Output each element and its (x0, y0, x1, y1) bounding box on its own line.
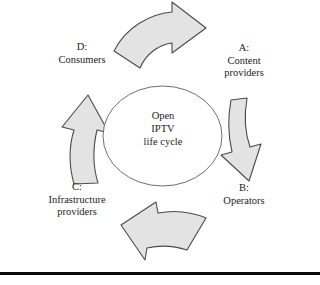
stage-d-line-1: Consumers (34, 54, 130, 67)
stage-c-line-1: Infrastructure (22, 194, 132, 207)
center-label-line-2: IPTV (103, 122, 223, 135)
stage-a-marker: A: (196, 42, 292, 55)
center-label-line-3: life cycle (103, 135, 223, 148)
stage-label-c: C: Infrastructure providers (22, 181, 132, 219)
bottom-divider-rule (0, 272, 320, 275)
bottom-arrow (121, 202, 206, 260)
stage-label-a: A: Content providers (196, 42, 292, 80)
center-label-line-1: Open (103, 109, 223, 122)
stage-b-line-1: Operators (196, 195, 292, 208)
left-arrow (62, 95, 109, 184)
right-arrow (221, 98, 261, 181)
stage-a-line-1: Content (196, 55, 292, 68)
stage-c-line-2: providers (22, 206, 132, 219)
stage-a-line-2: providers (196, 67, 292, 80)
stage-b-marker: B: (196, 182, 292, 195)
stage-label-d: D: Consumers (34, 41, 130, 66)
stage-label-b: B: Operators (196, 182, 292, 207)
open-iptv-life-cycle-figure: Open IPTV life cycle D: Consumers A: Con… (0, 0, 320, 285)
stage-d-marker: D: (34, 41, 130, 54)
stage-c-marker: C: (22, 181, 132, 194)
center-label: Open IPTV life cycle (103, 109, 223, 148)
